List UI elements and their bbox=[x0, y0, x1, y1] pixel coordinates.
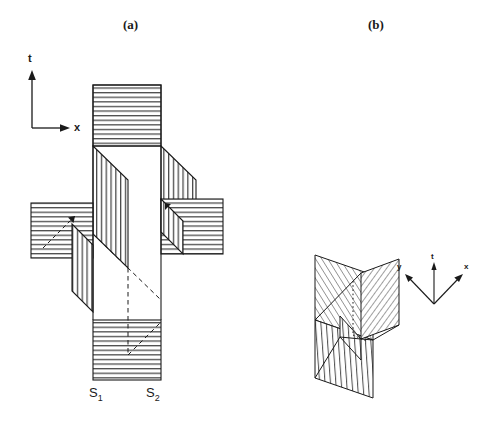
axis-label-x-panel-b: x bbox=[464, 262, 468, 271]
panel-b-drawing bbox=[0, 0, 484, 424]
figure-canvas: (a) (b) bbox=[0, 0, 484, 424]
axis-label-t-panel-b: t bbox=[431, 252, 434, 261]
axis-label-y-panel-b: y bbox=[397, 262, 401, 271]
axes-panel-b bbox=[405, 262, 463, 304]
